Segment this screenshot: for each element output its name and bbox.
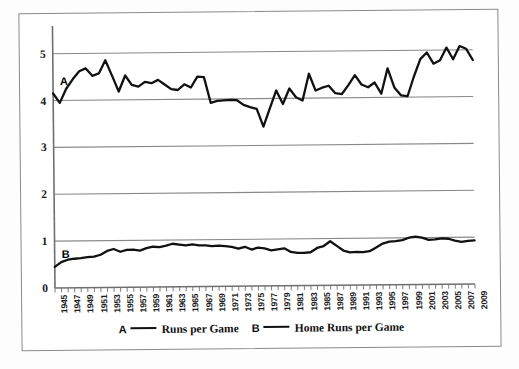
x-axis-label-1977: 1977 [269,293,279,311]
y-tick-label-0: 0 [42,282,48,294]
series-line-runs-per-game [53,46,474,129]
x-axis-label-1987: 1987 [335,292,345,310]
legend-item-runs-per-game: A Runs per Game [119,322,239,335]
x-axis-label-1995: 1995 [387,292,397,310]
legend-item-home-runs-per-game: B Home Runs per Game [252,321,404,334]
y-tick-label-1: 1 [42,235,48,247]
legend-label-runs-per-game: Runs per Game [162,322,239,335]
gridline-3 [54,143,474,147]
series-a-inline-label: A [60,75,68,87]
x-axis-label-2003: 2003 [440,291,450,309]
series-b-inline-label: B [62,248,70,260]
legend-key-b: B [252,322,260,334]
x-axis-label-1949: 1949 [85,295,95,313]
x-axis-label-1967: 1967 [204,293,214,311]
legend-label-home-runs-per-game: Home Runs per Game [295,321,404,334]
x-axis-label-1957: 1957 [138,294,148,312]
x-axis-label-2009: 2009 [479,291,489,309]
gridlines [53,50,475,241]
x-axis-label-1973: 1973 [243,293,253,311]
x-axis-label-2007: 2007 [466,291,476,309]
x-axis-label-1979: 1979 [282,293,292,311]
gridline-2 [54,190,474,194]
y-tick-label-5: 5 [40,48,46,60]
x-axis-label-1993: 1993 [374,292,384,310]
x-axis-label-1963: 1963 [177,294,187,312]
plot-svg [53,31,475,288]
x-axis-label-1991: 1991 [361,292,371,310]
x-axis-label-1951: 1951 [99,294,109,312]
x-axis-label-1947: 1947 [72,295,82,313]
y-tick-label-2: 2 [41,188,47,200]
gridline-4 [53,97,473,101]
x-axis-label-1985: 1985 [322,292,332,310]
legend-line-b [264,326,290,328]
x-axis-label-1965: 1965 [190,294,200,312]
x-axis-label-1961: 1961 [164,294,174,312]
x-axis-label-1955: 1955 [125,294,135,312]
x-axis-label-2005: 2005 [453,291,463,309]
scan-skew-wrapper: 5 4 3 2 1 0 A B 194519471949195119531955… [0,0,519,369]
x-axis-label-1953: 1953 [112,294,122,312]
x-axis-label-1999: 1999 [414,291,424,309]
x-axis-label-1981: 1981 [295,293,305,311]
legend-line-a [131,327,157,329]
legend-key-a: A [119,323,127,335]
x-axis-label-1975: 1975 [256,293,266,311]
chart-frame: 5 4 3 2 1 0 A B 194519471949195119531955… [18,9,501,352]
x-axis-label-1997: 1997 [400,292,410,310]
x-axis-label-1971: 1971 [230,293,240,311]
x-axis-label-1969: 1969 [217,293,227,311]
x-axis-label-2001: 2001 [427,291,437,309]
y-tick-label-3: 3 [41,141,47,153]
chart-screenshot: 5 4 3 2 1 0 A B 194519471949195119531955… [0,0,519,369]
x-axis-label-1959: 1959 [151,294,161,312]
x-axis-label-1989: 1989 [348,292,358,310]
x-axis-label-1945: 1945 [59,295,69,313]
gridline-5 [53,50,473,54]
plot-area: 5 4 3 2 1 0 A B [53,31,475,288]
y-tick-label-4: 4 [40,95,46,107]
x-axis-label-1983: 1983 [309,292,319,310]
